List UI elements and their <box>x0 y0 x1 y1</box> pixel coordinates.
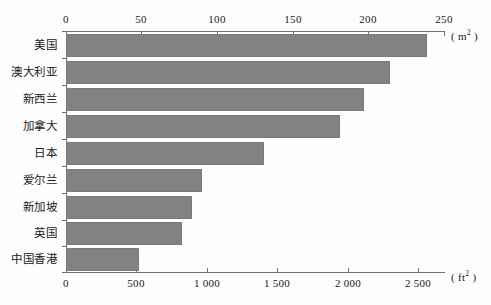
bottom-axis-unit: ( ft2 ) <box>451 271 476 283</box>
y-tick-6 <box>62 193 66 194</box>
y-tick-5 <box>62 166 66 167</box>
category-label-4: 日本 <box>34 147 57 160</box>
bar-8 <box>66 248 139 271</box>
top-axis-unit-exponent: 2 <box>467 28 471 37</box>
bar-7 <box>66 222 182 245</box>
category-label-0: 美国 <box>34 39 57 52</box>
category-label-2: 新西兰 <box>23 93 58 106</box>
y-tick-4 <box>62 139 66 140</box>
top-tick-label-1: 50 <box>135 13 147 25</box>
bar-1 <box>66 61 390 84</box>
y-tick-2 <box>62 85 66 86</box>
bottom-tick-4 <box>348 268 349 272</box>
bottom-tick-5 <box>418 268 419 272</box>
top-tick-label-0: 0 <box>63 13 69 25</box>
top-tick-5 <box>444 32 445 36</box>
bar-6 <box>66 196 192 219</box>
bottom-tick-label-1: 500 <box>127 277 144 289</box>
bar-4 <box>66 142 264 165</box>
category-label-3: 加拿大 <box>23 120 58 133</box>
top-axis-unit-symbol: m <box>458 30 467 42</box>
top-tick-label-3: 150 <box>284 13 301 25</box>
y-tick-3 <box>62 112 66 113</box>
bar-0 <box>66 34 427 57</box>
bottom-axis-unit-exponent: 2 <box>465 269 469 278</box>
top-axis-unit: ( m2 ) <box>451 30 478 42</box>
y-tick-8 <box>62 246 66 247</box>
bottom-tick-label-5: 2 500 <box>405 277 431 289</box>
bottom-tick-label-4: 2 000 <box>335 277 361 289</box>
top-tick-label-5: 250 <box>435 13 452 25</box>
bottom-tick-label-0: 0 <box>63 277 69 289</box>
y-tick-1 <box>62 58 66 59</box>
category-label-5: 爱尔兰 <box>23 174 58 187</box>
category-label-6: 新加坡 <box>23 201 58 214</box>
bottom-tick-label-2: 1 000 <box>194 277 220 289</box>
bar-chart: 0 50 100 150 200 250 0 500 1 000 1 500 2… <box>0 0 491 305</box>
bottom-tick-2 <box>207 268 208 272</box>
y-tick-0 <box>62 31 66 32</box>
top-tick-label-2: 100 <box>208 13 225 25</box>
category-label-1: 澳大利亚 <box>11 66 57 79</box>
y-tick-7 <box>62 220 66 221</box>
y-tick-9 <box>62 272 66 273</box>
bottom-axis-line <box>66 272 445 273</box>
category-label-7: 英国 <box>34 227 57 240</box>
category-label-8: 中国香港 <box>11 253 57 266</box>
bar-3 <box>66 115 340 138</box>
bar-2 <box>66 88 364 111</box>
top-tick-label-4: 200 <box>359 13 376 25</box>
bottom-tick-3 <box>277 268 278 272</box>
bottom-tick-label-3: 1 500 <box>264 277 290 289</box>
top-axis-line <box>66 31 445 32</box>
bar-5 <box>66 169 202 192</box>
